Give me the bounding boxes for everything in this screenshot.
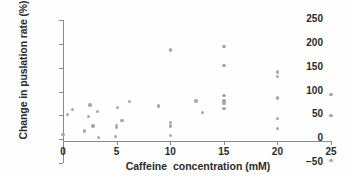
data-point <box>169 124 172 127</box>
x-tick-mark <box>331 141 332 145</box>
data-point <box>222 94 225 97</box>
x-tick-label: 10 <box>158 146 182 157</box>
y-tick-label: 100 <box>289 85 323 96</box>
data-point <box>96 110 99 113</box>
plot-area: −50050100150200250 0510152025 <box>63 20 331 163</box>
x-tick-mark <box>170 141 171 145</box>
data-point <box>276 117 279 120</box>
y-tick-mark <box>59 44 63 45</box>
data-point <box>222 64 225 67</box>
x-tick-label: 5 <box>105 146 129 157</box>
data-point <box>276 96 279 99</box>
y-tick-mark <box>59 20 63 21</box>
y-tick-label: 0 <box>289 132 323 143</box>
x-tick-mark <box>63 141 64 145</box>
data-point <box>276 75 279 78</box>
data-point <box>120 119 123 122</box>
data-point <box>329 93 332 96</box>
data-point <box>116 106 119 109</box>
x-tick-mark <box>277 141 278 145</box>
x-tick-label: 25 <box>319 146 343 157</box>
data-point <box>83 129 86 132</box>
data-point <box>66 113 69 116</box>
data-point <box>276 70 279 73</box>
data-point <box>169 121 172 124</box>
y-axis-label: Change in puslation rate (%) <box>17 0 29 145</box>
data-point <box>194 99 197 102</box>
x-tick-label: 20 <box>265 146 289 157</box>
data-point <box>91 124 94 127</box>
data-point <box>222 99 225 102</box>
y-tick-label: 50 <box>289 108 323 119</box>
y-tick-label: −50 <box>289 156 323 167</box>
data-point <box>71 108 74 111</box>
y-tick-label: 250 <box>289 13 323 24</box>
data-point <box>97 136 100 139</box>
y-tick-mark <box>59 115 63 116</box>
data-point <box>222 107 225 110</box>
data-point <box>329 114 332 117</box>
data-point <box>169 48 172 51</box>
data-point <box>128 100 131 103</box>
data-point <box>276 127 279 130</box>
x-tick-mark <box>117 141 118 145</box>
x-tick-label: 15 <box>212 146 236 157</box>
data-point <box>87 115 90 118</box>
data-point <box>201 111 204 114</box>
x-tick-label: 0 <box>51 146 75 157</box>
x-tick-mark <box>224 141 225 145</box>
scatter-plot-figure: Change in puslation rate (%) Caffeine co… <box>0 0 355 178</box>
data-point <box>114 135 117 138</box>
y-tick-mark <box>59 139 63 140</box>
y-tick-mark <box>59 92 63 93</box>
data-point <box>329 159 332 162</box>
data-point <box>61 133 64 136</box>
data-point <box>157 104 160 107</box>
y-tick-mark <box>59 68 63 69</box>
data-point <box>88 103 91 106</box>
data-point <box>169 134 172 137</box>
y-tick-mark <box>59 163 63 164</box>
y-tick-label: 150 <box>289 61 323 72</box>
data-point <box>222 45 225 48</box>
y-tick-label: 200 <box>289 37 323 48</box>
